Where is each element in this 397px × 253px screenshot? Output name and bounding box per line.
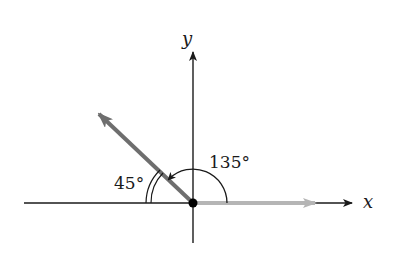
y-axis-label: y [181, 28, 193, 49]
x-axis-label: x [363, 191, 373, 212]
angle-diagram: y x 135° 45° [0, 0, 397, 253]
angle-arc-45-inner [151, 173, 163, 203]
angle-label-45: 45° [114, 173, 144, 193]
angle-label-135: 135° [209, 152, 250, 172]
angle-arc-45-outer [146, 170, 160, 203]
origin-point [189, 199, 198, 208]
